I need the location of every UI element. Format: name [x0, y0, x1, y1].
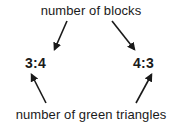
- ratio-annotation-diagram: number of blocks 3:4 4:3 number of green…: [0, 0, 182, 127]
- arrow-top-to-left-ratio: [55, 21, 68, 50]
- ratio-value-right: 4:3: [133, 56, 154, 70]
- bottom-annotation-label: number of green triangles: [0, 108, 182, 121]
- arrow-bottom-to-left-ratio: [32, 75, 47, 104]
- ratio-value-left: 3:4: [25, 56, 46, 70]
- arrow-top-to-right-ratio: [112, 21, 135, 50]
- arrow-bottom-to-right-ratio: [136, 75, 152, 104]
